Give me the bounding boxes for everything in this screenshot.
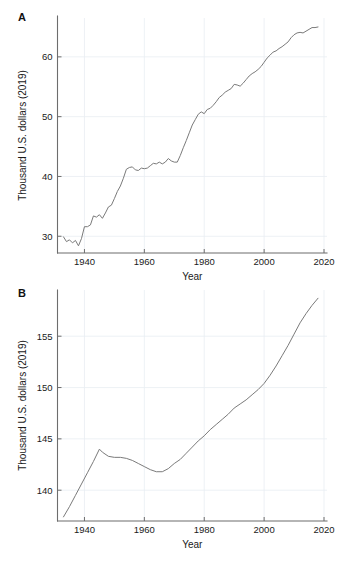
data-series-line: [63, 298, 318, 517]
panel-a: A 3040506019401960198020002020YearThousa…: [0, 0, 348, 285]
x-axis-title: Year: [182, 271, 203, 282]
y-tick-label: 50: [42, 111, 53, 122]
x-tick-label: 2000: [254, 524, 275, 535]
x-tick-label: 1980: [194, 256, 215, 267]
panel-b: B 14014515015519401960198020002020YearTh…: [0, 282, 348, 567]
y-tick-label: 155: [37, 331, 53, 342]
x-tick-label: 2020: [313, 524, 334, 535]
x-axis-title: Year: [182, 539, 203, 550]
y-tick-label: 150: [37, 382, 53, 393]
panel-b-chart: 14014515015519401960198020002020YearThou…: [0, 282, 348, 567]
data-series-line: [63, 27, 318, 246]
x-tick-label: 1960: [134, 256, 155, 267]
y-tick-label: 30: [42, 231, 53, 242]
y-tick-label: 145: [37, 433, 53, 444]
x-tick-label: 2000: [254, 256, 275, 267]
panel-a-chart: 3040506019401960198020002020YearThousand…: [0, 0, 348, 285]
y-axis-title: Thousand U.S. dollars (2019): [17, 340, 28, 471]
x-tick-label: 1980: [194, 524, 215, 535]
x-tick-label: 1960: [134, 524, 155, 535]
x-tick-label: 1940: [74, 256, 95, 267]
panel-b-letter: B: [18, 287, 26, 299]
y-axis-title: Thousand U.S. dollars (2019): [17, 70, 28, 201]
y-tick-label: 60: [42, 51, 53, 62]
y-tick-label: 40: [42, 171, 53, 182]
x-tick-label: 1940: [74, 524, 95, 535]
figure-container: A 3040506019401960198020002020YearThousa…: [0, 0, 348, 567]
panel-a-letter: A: [18, 11, 26, 23]
x-tick-label: 2020: [313, 256, 334, 267]
y-tick-label: 140: [37, 485, 53, 496]
